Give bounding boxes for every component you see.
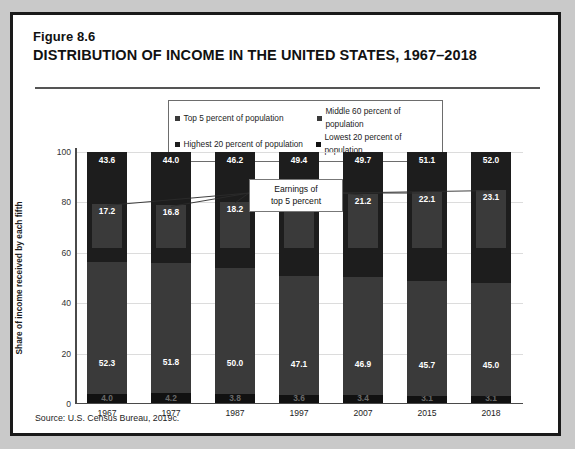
callout-line-2: top 5 percent [271, 196, 321, 206]
legend-row-1: Top 5 percent of population Middle 60 pe… [175, 105, 436, 131]
legend-label: Middle 60 percent of population [325, 105, 436, 131]
bar-value-top5: 21.2 [348, 196, 378, 206]
callout-box: Earnings of top 5 percent [249, 179, 343, 212]
bar-segment-middle60[interactable]: 46.9 [343, 277, 383, 395]
y-tick-label: 100 [57, 147, 71, 157]
bar-value-middle60: 52.3 [87, 358, 127, 368]
x-axis-line [75, 403, 523, 405]
figure-number: Figure 8.6 [33, 29, 538, 44]
bar-value-highest20: 46.2 [215, 155, 255, 165]
bar-value-middle60: 45.0 [471, 360, 511, 370]
bar-value-top5: 22.1 [412, 194, 442, 204]
bar-value-top5: 18.2 [220, 204, 250, 214]
bar-value-highest20: 52.0 [471, 155, 511, 165]
bar-value-middle60: 50.0 [215, 358, 255, 368]
legend-swatch-icon [175, 142, 180, 147]
bar-value-top5: 16.8 [156, 207, 186, 217]
x-tick-label: 1997 [289, 408, 308, 418]
legend-item-middle60: Middle 60 percent of population [317, 105, 436, 131]
bar-value-highest20: 43.6 [87, 155, 127, 165]
x-tick-label: 1987 [225, 408, 244, 418]
figure-title: DISTRIBUTION OF INCOME IN THE UNITED STA… [33, 47, 538, 63]
legend-swatch-icon [317, 116, 322, 121]
chart-plot-area: Share of income received by each fifth 0… [75, 152, 523, 404]
bar-value-lowest20: 4.0 [87, 393, 127, 403]
y-tick-label: 80 [61, 197, 71, 207]
y-tick-label: 20 [61, 349, 71, 359]
bar-value-middle60: 45.7 [407, 360, 447, 370]
callout-line-1: Earnings of [274, 184, 317, 194]
bar-value-middle60: 46.9 [343, 359, 383, 369]
bar-segment-middle60[interactable]: 51.8 [151, 263, 191, 394]
bar-segment-middle60[interactable]: 52.3 [87, 262, 127, 394]
bar-group[interactable]: 4.052.343.6 [87, 152, 127, 404]
y-axis-line [75, 148, 77, 404]
legend-swatch-icon [316, 142, 321, 147]
bar-value-top5: 17.2 [92, 206, 122, 216]
bar-group[interactable]: 4.251.844.0 [151, 152, 191, 404]
x-tick-label: 2015 [417, 408, 436, 418]
bar-segment-middle60[interactable]: 45.0 [471, 283, 511, 396]
bar-segment-top5[interactable]: 18.2 [220, 202, 250, 248]
x-tick-label: 2007 [353, 408, 372, 418]
legend-label: Top 5 percent of population [184, 112, 284, 125]
bar-segment-top5[interactable]: 17.2 [92, 204, 122, 247]
bar-value-lowest20: 3.8 [215, 393, 255, 403]
bar-segment-middle60[interactable]: 45.7 [407, 281, 447, 396]
y-tick-label: 0 [66, 399, 71, 409]
bar-value-highest20: 51.1 [407, 155, 447, 165]
y-axis-title: Share of income received by each fifth [14, 201, 24, 354]
bar-segment-middle60[interactable]: 50.0 [215, 268, 255, 394]
figure-header: Figure 8.6 DISTRIBUTION OF INCOME IN THE… [33, 29, 538, 63]
legend-item-top5: Top 5 percent of population [175, 105, 317, 131]
source-note: Source: U.S. Census Bureau, 2019c. [35, 413, 179, 423]
figure-card: Figure 8.6 DISTRIBUTION OF INCOME IN THE… [10, 12, 561, 436]
legend-swatch-icon [175, 116, 180, 121]
title-divider [35, 87, 540, 89]
bar-group[interactable]: 3.446.949.7 [343, 152, 383, 404]
x-tick-label: 2018 [481, 408, 500, 418]
bar-value-highest20: 49.4 [279, 155, 319, 165]
bar-group[interactable]: 3.145.751.1 [407, 152, 447, 404]
y-tick-label: 40 [61, 298, 71, 308]
bar-segment-top5[interactable]: 21.2 [348, 194, 378, 247]
bar-value-middle60: 47.1 [279, 359, 319, 369]
legend-label: Highest 20 percent of population [184, 138, 303, 151]
bar-value-top5: 23.1 [476, 192, 506, 202]
bar-segment-top5[interactable]: 22.1 [412, 192, 442, 248]
bar-segment-middle60[interactable]: 47.1 [279, 276, 319, 395]
bar-value-middle60: 51.8 [151, 357, 191, 367]
bar-segment-top5[interactable]: 16.8 [156, 205, 186, 247]
bar-value-highest20: 49.7 [343, 155, 383, 165]
y-tick-label: 60 [61, 248, 71, 258]
bar-value-lowest20: 4.2 [151, 393, 191, 403]
bar-segment-top5[interactable]: 23.1 [476, 190, 506, 248]
bar-value-highest20: 44.0 [151, 155, 191, 165]
